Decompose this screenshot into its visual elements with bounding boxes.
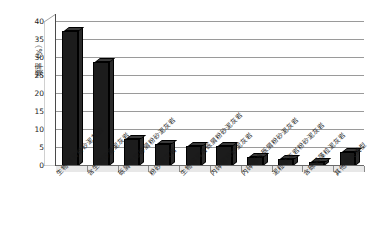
y-tick-label: 20	[4, 90, 44, 98]
bar	[62, 31, 77, 166]
y-tick-label: 35	[4, 36, 44, 44]
bar-chart: 频率（%） 0510152025303540 生物碎屑粉砂泥灰岩含生物碎屑泥灰岩…	[0, 0, 375, 248]
y-tick-label: 25	[4, 72, 44, 80]
y-tick-label: 15	[4, 108, 44, 116]
y-tick-label: 10	[4, 126, 44, 134]
y-tick-label: 5	[4, 144, 44, 152]
bar-front-face	[62, 31, 77, 166]
y-tick-label: 30	[4, 54, 44, 62]
y-axis-tick-labels: 0510152025303540	[0, 0, 44, 180]
y-tick-label: 40	[4, 18, 44, 26]
x-axis-category-labels: 生物碎屑粉砂泥灰岩含生物碎屑泥灰岩砾屑生物碎屑粉砂泥灰岩粉砂泥灰岩生物碎屑含砾屑…	[44, 172, 375, 248]
y-tick-label: 0	[4, 162, 44, 170]
